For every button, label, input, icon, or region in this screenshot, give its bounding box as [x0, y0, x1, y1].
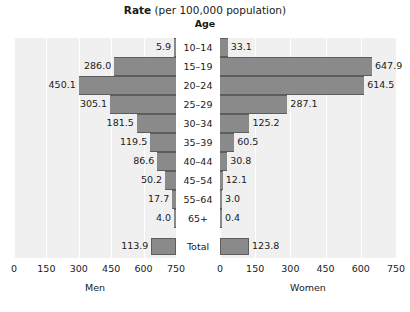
axis-tick-label: 150 — [37, 262, 55, 275]
bar-men-25–29 — [110, 95, 176, 114]
chart-row: 113.9 — [14, 238, 176, 255]
bar-value-label: 119.5 — [120, 136, 147, 148]
age-category-label: 25–29 — [176, 99, 220, 111]
axis-tick-label: 600 — [135, 262, 153, 275]
bar-women-55–64 — [220, 190, 222, 209]
axis-tick-label: 0 — [11, 262, 17, 275]
chart-row: 4.0 — [14, 209, 176, 228]
chart-row: 50.2 — [14, 171, 176, 190]
chart-title-rest: (per 100,000 population) — [151, 4, 286, 16]
bar-women-65+ — [220, 209, 222, 228]
bar-women-35–39 — [220, 133, 234, 152]
x-axis-women: 0150300450600750 — [220, 262, 396, 276]
age-category-label: 65+ — [176, 213, 220, 225]
bar-women-25–29 — [220, 95, 287, 114]
bar-women-45–54 — [220, 171, 223, 190]
chart-row: 60.5 — [220, 133, 396, 152]
bar-rows-women: 33.1647.9614.5287.1125.260.530.812.13.00… — [220, 38, 396, 258]
bar-men-35–39 — [150, 133, 176, 152]
bar-value-label: 287.1 — [290, 98, 317, 110]
chart-row: 5.9 — [14, 38, 176, 57]
bar-value-label: 12.1 — [226, 174, 247, 186]
axis-tick-label: 750 — [167, 262, 185, 275]
bar-men-30–34 — [137, 114, 176, 133]
bar-value-label: 286.0 — [84, 60, 111, 72]
bar-women-30–34 — [220, 114, 249, 133]
bar-men-15–19 — [114, 57, 176, 76]
chart-row: 17.7 — [14, 190, 176, 209]
chart-row: 450.1 — [14, 76, 176, 95]
bar-men-20–24 — [79, 76, 176, 95]
page-title: Rate (per 100,000 population) — [0, 4, 410, 17]
chart-row: 3.0 — [220, 190, 396, 209]
bar-rows-men: 5.9286.0450.1305.1181.5119.586.650.217.7… — [14, 38, 176, 258]
chart-row: 86.6 — [14, 152, 176, 171]
chart-row: 125.2 — [220, 114, 396, 133]
axis-label-women: Women — [290, 281, 326, 294]
axis-tick-label: 0 — [217, 262, 223, 275]
chart-title-bold: Rate — [124, 4, 151, 16]
bar-value-label: 5.9 — [156, 41, 171, 53]
chart-panel-men: 5.9286.0450.1305.1181.5119.586.650.217.7… — [14, 38, 176, 258]
bar-value-label: 4.0 — [156, 212, 171, 224]
age-category-label: 40–44 — [176, 156, 220, 168]
age-category-label: Total — [176, 241, 220, 253]
chart-row: 287.1 — [220, 95, 396, 114]
chart-row: 647.9 — [220, 57, 396, 76]
axis-tick-label: 300 — [70, 262, 88, 275]
age-category-label: 35–39 — [176, 137, 220, 149]
age-category-label: 10–14 — [176, 42, 220, 54]
age-category-label: 30–34 — [176, 118, 220, 130]
bar-women-Total — [220, 238, 249, 255]
axis-tick-label: 150 — [246, 262, 264, 275]
chart-row: 614.5 — [220, 76, 396, 95]
chart-row: 0.4 — [220, 209, 396, 228]
bar-value-label: 0.4 — [225, 212, 240, 224]
age-category-column: 10–1415–1920–2425–2930–3435–3940–4445–54… — [176, 38, 220, 258]
axis-tick-label: 300 — [281, 262, 299, 275]
age-category-label: 55–64 — [176, 194, 220, 206]
age-category-label: 15–19 — [176, 61, 220, 73]
bar-men-Total — [151, 238, 176, 255]
chart-row: 181.5 — [14, 114, 176, 133]
category-axis-title: Age — [0, 18, 410, 30]
axis-label-men: Men — [85, 281, 105, 294]
bar-value-label: 86.6 — [133, 155, 154, 167]
bar-value-label: 614.5 — [367, 79, 394, 91]
bar-value-label: 305.1 — [80, 98, 107, 110]
bar-value-label: 17.7 — [148, 193, 169, 205]
bar-value-label: 113.9 — [121, 240, 148, 252]
bar-value-label: 30.8 — [230, 155, 251, 167]
x-axis-men: 7506004503001500 — [14, 262, 176, 276]
bar-value-label: 123.8 — [252, 240, 279, 252]
chart-row: 12.1 — [220, 171, 396, 190]
age-category-label: 45–54 — [176, 175, 220, 187]
bar-value-label: 125.2 — [252, 117, 279, 129]
bar-value-label: 60.5 — [237, 136, 258, 148]
bar-women-10–14 — [220, 38, 228, 57]
chart-row: 30.8 — [220, 152, 396, 171]
bar-value-label: 647.9 — [375, 60, 402, 72]
bar-men-45–54 — [165, 171, 176, 190]
bar-value-label: 3.0 — [225, 193, 240, 205]
age-category-label: 20–24 — [176, 80, 220, 92]
chart-row: 305.1 — [14, 95, 176, 114]
chart-row: 286.0 — [14, 57, 176, 76]
axis-tick-label: 450 — [102, 262, 120, 275]
bar-value-label: 450.1 — [49, 79, 76, 91]
axis-tick-label: 450 — [317, 262, 335, 275]
axis-tick-label: 600 — [352, 262, 370, 275]
chart-row: 33.1 — [220, 38, 396, 57]
bar-value-label: 33.1 — [231, 41, 252, 53]
bar-women-20–24 — [220, 76, 364, 95]
chart-panel-women: 33.1647.9614.5287.1125.260.530.812.13.00… — [220, 38, 396, 258]
bar-value-label: 50.2 — [141, 174, 162, 186]
chart-row: 119.5 — [14, 133, 176, 152]
axis-tick-label: 750 — [387, 262, 405, 275]
chart-row: 123.8 — [220, 238, 396, 255]
bar-men-40–44 — [157, 152, 176, 171]
bar-value-label: 181.5 — [107, 117, 134, 129]
bar-women-15–19 — [220, 57, 372, 76]
bar-women-40–44 — [220, 152, 227, 171]
